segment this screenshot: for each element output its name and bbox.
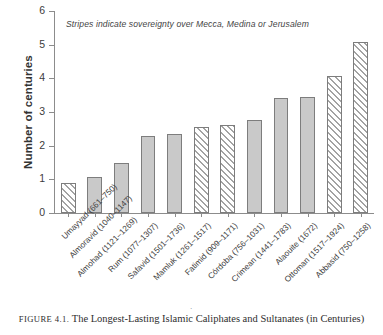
bar[interactable] [194,127,209,213]
x-axis-labels: Umayyad (661–750)Almoravid (1040–1147)Al… [55,219,374,299]
bar-slot [241,11,268,213]
x-tick [148,213,149,217]
bar[interactable] [353,42,368,213]
x-tick [281,213,282,217]
x-tick [254,213,255,217]
bar[interactable] [274,98,289,213]
y-tick-0: 0 [49,213,55,214]
bar[interactable] [247,120,262,213]
y-tick-label: 2 [39,139,45,151]
bar-slot [347,11,374,213]
x-tick [121,213,122,217]
bar-series [55,11,374,213]
figure-caption: FIGURE 4.1. The Longest-Lasting Islamic … [0,313,383,324]
x-tick [175,213,176,217]
y-tick-label: 4 [39,71,45,83]
bar[interactable] [300,97,315,213]
figure-number: FIGURE 4.1. [19,314,69,324]
bar-slot [188,11,215,213]
y-tick-label: 1 [39,172,45,184]
y-tick-label: 3 [39,105,45,117]
x-tick [201,213,202,217]
bar-slot [215,11,242,213]
bar-slot [294,11,321,213]
x-tick [228,213,229,217]
figure-caption-text: The Longest-Lasting Islamic Caliphates a… [72,313,364,324]
page-tick-mark: · [190,305,192,312]
bar-slot [82,11,109,213]
figure-container: Number of centuries 0123456 Stripes indi… [0,0,383,335]
x-tick [361,213,362,217]
y-tick-label: 5 [39,38,45,50]
bar-slot [135,11,162,213]
y-axis-title: Number of centuries [22,37,34,187]
bar[interactable] [167,134,182,213]
x-tick [308,213,309,217]
x-tick [95,213,96,217]
x-tick [68,213,69,217]
bar-slot [321,11,348,213]
bar-slot [161,11,188,213]
x-tick [334,213,335,217]
bar[interactable] [327,76,342,213]
x-axis-line [54,213,374,214]
bar-slot [55,11,82,213]
x-axis-label: Umayyad (661–750) [60,221,80,241]
chart-plot-area: Number of centuries 0123456 Stripes indi… [0,0,383,300]
y-tick-label: 6 [39,4,45,16]
bar[interactable] [141,136,156,213]
bar[interactable] [61,183,76,213]
bar-slot [268,11,295,213]
y-tick-label: 0 [39,206,45,218]
bar[interactable] [220,125,235,213]
